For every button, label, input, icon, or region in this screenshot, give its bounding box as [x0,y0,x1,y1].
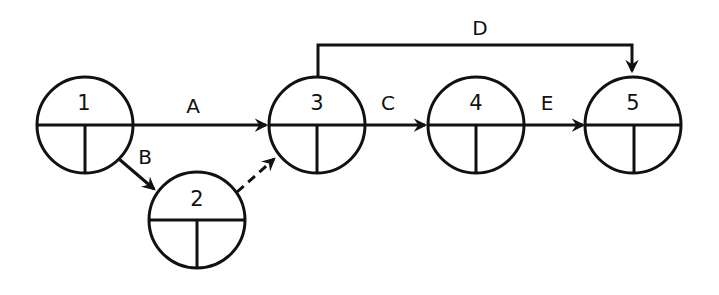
edge-c: C [365,91,425,125]
edge-d: D [318,16,632,76]
node-3: 3 [269,77,365,173]
node-5: 5 [585,77,681,173]
edge-a: A [133,94,266,125]
node-2: 2 [149,172,245,268]
node-2-number: 2 [190,187,203,211]
node-3-number: 3 [310,91,323,115]
edge-dummy [237,159,274,192]
edge-e: E [524,91,583,125]
network-diagram: A B C D E 1 2 3 4 [0,0,719,295]
edge-c-label: C [381,91,395,115]
node-5-number: 5 [626,91,639,115]
edge-d-label: D [472,16,487,40]
node-4: 4 [428,77,524,173]
edge-e-label: E [541,91,554,115]
edge-d-line [318,45,632,76]
node-1-number: 1 [77,91,90,115]
node-4-number: 4 [469,91,482,115]
edge-dummy-line [237,159,274,192]
edge-b-label: B [138,145,152,169]
edge-a-label: A [186,94,200,118]
node-1: 1 [37,77,133,173]
